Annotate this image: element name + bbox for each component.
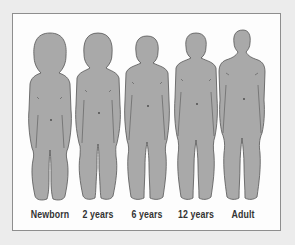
figure-12-years: [175, 33, 218, 199]
figure-2-years: [76, 33, 121, 199]
figure-6-years: [125, 36, 170, 199]
figure-newborn: [29, 33, 72, 200]
label-newborn: Newborn: [31, 209, 69, 220]
label-adult: Adult: [232, 209, 255, 220]
label-6-years: 6 years: [132, 209, 163, 220]
figure-adult: [219, 30, 265, 199]
label-12-years: 12 years: [178, 209, 214, 220]
label-2-years: 2 years: [83, 209, 114, 220]
